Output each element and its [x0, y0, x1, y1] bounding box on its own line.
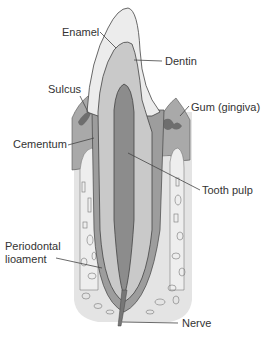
bone-right-inner: [170, 148, 184, 290]
label-sulcus: Sulcus: [48, 83, 82, 95]
tooth-diagram: Enamel Dentin Sulcus Gum (gingiva) Cemen…: [0, 0, 268, 338]
label-enamel: Enamel: [62, 26, 99, 38]
label-cementum: Cementum: [13, 138, 67, 150]
label-periodontal-1: Periodontal: [5, 240, 61, 252]
label-periodontal-2: lioament: [5, 253, 47, 265]
label-tooth-pulp: Tooth pulp: [202, 184, 253, 196]
label-gum: Gum (gingiva): [191, 101, 260, 113]
label-dentin: Dentin: [165, 55, 197, 67]
label-nerve: Nerve: [182, 317, 211, 329]
